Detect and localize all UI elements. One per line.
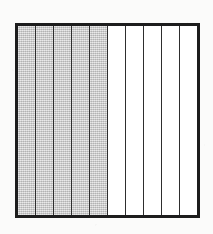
figure-canvas: [0, 0, 213, 234]
fraction-part-9: [162, 26, 180, 215]
fraction-part-10: [180, 26, 197, 215]
fraction-part-8: [144, 26, 162, 215]
fraction-part-3: [54, 26, 72, 215]
fraction-part-2: [36, 26, 54, 215]
fraction-part-5: [90, 26, 108, 215]
fraction-part-7: [126, 26, 144, 215]
fraction-part-4: [72, 26, 90, 215]
fraction-part-6: [108, 26, 126, 215]
fraction-bar-model: [15, 23, 200, 218]
fraction-part-1: [18, 26, 36, 215]
